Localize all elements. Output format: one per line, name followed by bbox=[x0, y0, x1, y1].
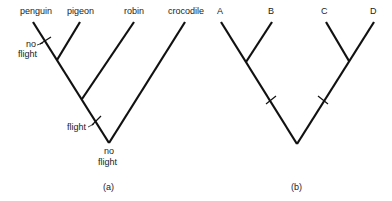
branch-b bbox=[246, 22, 272, 62]
annotation-flight: flight bbox=[18, 49, 38, 59]
taxon-d: D bbox=[370, 6, 377, 16]
annotation-root-no: no bbox=[104, 146, 114, 156]
caption-a: (a) bbox=[103, 182, 114, 192]
branch-d bbox=[297, 22, 374, 144]
branch-robin bbox=[82, 22, 134, 99]
branch-crocodile bbox=[109, 22, 185, 143]
annotation-root-flight: flight bbox=[98, 157, 118, 167]
taxon-c: C bbox=[321, 6, 328, 16]
annotation-flight-stem: flight bbox=[67, 122, 87, 132]
taxon-pigeon: pigeon bbox=[67, 6, 94, 16]
tree-b: A B C D (b) bbox=[217, 6, 377, 192]
taxon-robin: robin bbox=[124, 6, 144, 16]
caption-b: (b) bbox=[291, 182, 302, 192]
taxon-crocodile: crocodile bbox=[168, 6, 204, 16]
annotation-no: no bbox=[26, 39, 36, 49]
taxon-a: A bbox=[217, 6, 223, 16]
cladogram-figure: penguin pigeon robin crocodile no flight… bbox=[0, 0, 392, 201]
branch-c bbox=[326, 22, 349, 61]
leader-line bbox=[88, 124, 94, 127]
taxon-penguin: penguin bbox=[20, 6, 52, 16]
branch-pigeon bbox=[57, 22, 80, 60]
taxon-b: B bbox=[268, 6, 274, 16]
tree-a: penguin pigeon robin crocodile no flight… bbox=[18, 6, 204, 192]
